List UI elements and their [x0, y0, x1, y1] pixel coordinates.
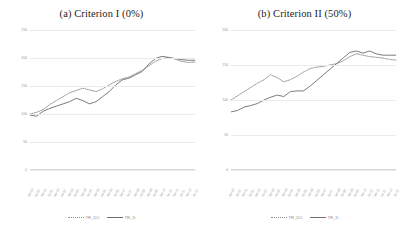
- x-tick-labels-criterion-ii: Jan-00Jul-00Jan-01Jul-01Jan-02Jul-02Jan-…: [231, 172, 396, 198]
- legend-label-trd-a: TR_D: [125, 215, 136, 220]
- legend-item-trd-a: TR_D: [107, 215, 136, 220]
- plot-area-criterion-ii: 050100150200: [231, 30, 396, 170]
- legend-criterion-ii: TR_DC TR_D: [203, 215, 406, 220]
- y-tick-label: 200: [222, 28, 228, 32]
- y-tick-label: 200: [21, 56, 27, 60]
- series-lines-criterion-i: [30, 30, 195, 170]
- gridline: [231, 135, 396, 136]
- gridline: [30, 170, 195, 171]
- gridline: [231, 170, 396, 171]
- legend-label-trdc-a: TR_DC: [86, 215, 100, 220]
- plot-area-criterion-i: 050100150200250: [30, 30, 195, 170]
- legend-item-trd-b: TR_D: [310, 215, 339, 220]
- gridline: [30, 58, 195, 59]
- x-tick-label: Jul-07: [326, 189, 333, 198]
- x-tick-label: Jul-12: [191, 189, 198, 198]
- gridline: [231, 100, 396, 101]
- legend-item-trdc-a: TR_DC: [68, 215, 100, 220]
- y-tick-label: 0: [226, 168, 228, 172]
- y-tick-label: 0: [25, 168, 27, 172]
- series-line-tr_dc: [231, 54, 396, 100]
- solid-line-marker-icon: [107, 217, 123, 218]
- x-tick-label: Jul-12: [392, 189, 399, 198]
- panel-criterion-ii: (b) Criterion II (50%) 050100150200 Jan-…: [203, 0, 406, 229]
- y-tick-label: 250: [21, 28, 27, 32]
- series-line-tr_d: [231, 51, 396, 112]
- panel-b-title: (b) Criterion II (50%): [203, 8, 406, 19]
- y-tick-label: 100: [222, 98, 228, 102]
- legend-label-trdc-b: TR_DC: [289, 215, 303, 220]
- legend-label-trd-b: TR_D: [328, 215, 339, 220]
- x-tick-label: Jul-02: [59, 189, 66, 198]
- legend-item-trdc-b: TR_DC: [271, 215, 303, 220]
- y-tick-label: 100: [21, 112, 27, 116]
- panel-a-title: (a) Criterion I (0%): [0, 8, 203, 19]
- solid-line-marker-icon: [310, 217, 326, 218]
- y-tick-label: 150: [222, 63, 228, 67]
- figure-two-panel-line-charts: (a) Criterion I (0%) 050100150200250 Jan…: [0, 0, 407, 229]
- gridline: [231, 65, 396, 66]
- y-tick-label: 150: [21, 84, 27, 88]
- panel-criterion-i: (a) Criterion I (0%) 050100150200250 Jan…: [0, 0, 203, 229]
- x-tick-labels-criterion-i: Jan-00Jul-00Jan-01Jul-01Jan-02Jul-02Jan-…: [30, 172, 195, 198]
- gridline: [30, 114, 195, 115]
- gridline: [30, 30, 195, 31]
- x-tick-label: Jul-07: [125, 189, 132, 198]
- dotted-line-marker-icon: [68, 217, 84, 218]
- legend-criterion-i: TR_DC TR_D: [0, 215, 203, 220]
- dotted-line-marker-icon: [271, 217, 287, 218]
- y-tick-label: 50: [23, 140, 27, 144]
- gridline: [30, 142, 195, 143]
- gridline: [231, 30, 396, 31]
- y-tick-label: 50: [224, 133, 228, 137]
- x-tick-label: Jul-02: [260, 189, 267, 198]
- gridline: [30, 86, 195, 87]
